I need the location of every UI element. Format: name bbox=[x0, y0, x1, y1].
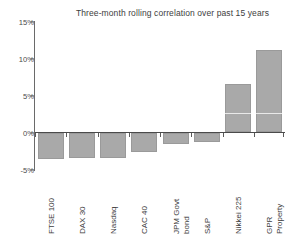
x-axis-category-label: JPM Govt bond bbox=[172, 172, 191, 234]
x-axis-tick-mark bbox=[35, 133, 36, 137]
bar bbox=[225, 84, 251, 133]
bar bbox=[69, 133, 95, 159]
bar bbox=[131, 133, 157, 152]
x-axis-category-label: Nasdaq bbox=[109, 172, 119, 234]
x-axis-tick-mark bbox=[129, 133, 130, 137]
bar bbox=[194, 133, 220, 143]
x-axis-category-label: GPR Property bbox=[265, 172, 284, 234]
bar bbox=[100, 133, 126, 158]
inner-gridline bbox=[35, 113, 285, 114]
x-axis-tick-mark bbox=[160, 133, 161, 137]
bar bbox=[38, 133, 64, 160]
x-axis-tick-mark bbox=[191, 133, 192, 137]
bar bbox=[163, 133, 189, 145]
x-axis-tick-mark bbox=[66, 133, 67, 137]
x-axis-category-label: DAX 30 bbox=[78, 172, 88, 234]
x-axis-tick-mark bbox=[223, 133, 224, 137]
x-axis-category-label: FTSE 100 bbox=[47, 172, 57, 234]
x-axis-tick-mark bbox=[98, 133, 99, 137]
y-axis: -5%0%5%10%15% bbox=[0, 0, 34, 237]
x-axis-category-label: CAC 40 bbox=[140, 172, 150, 234]
x-axis-category-label: S&P bbox=[203, 172, 213, 234]
x-axis-labels: FTSE 100DAX 30NasdaqCAC 40JPM Govt bondS… bbox=[35, 172, 285, 236]
chart-container: Three-month rolling correlation over pas… bbox=[0, 0, 291, 237]
x-axis-category-label: Nikkei 225 bbox=[234, 172, 244, 234]
bar bbox=[256, 50, 282, 132]
x-axis-tick-mark bbox=[254, 133, 255, 137]
x-axis-tick-mark bbox=[283, 133, 284, 137]
